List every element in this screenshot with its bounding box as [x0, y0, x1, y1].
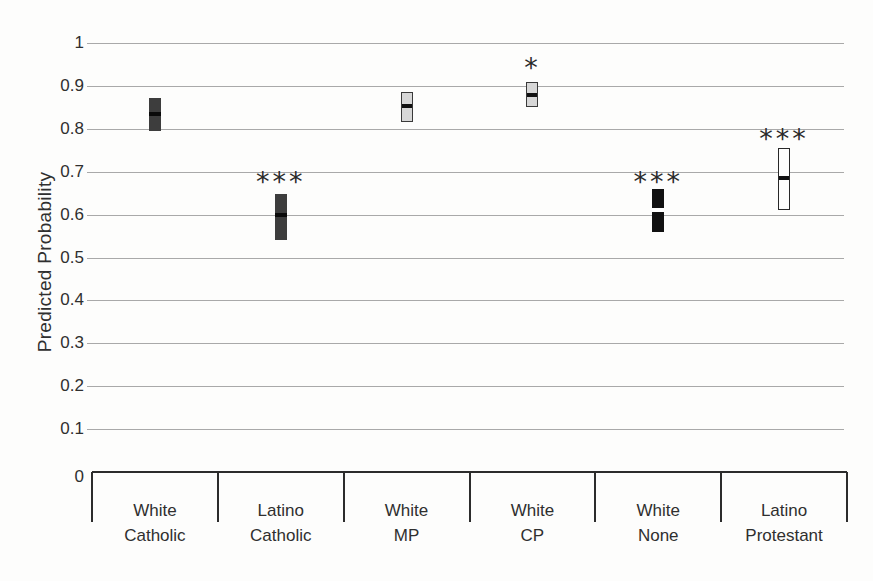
gridline-0.5: [87, 258, 844, 259]
point-estimate-latino-protestant: [779, 176, 789, 180]
y-tick-label: 0.8: [34, 119, 84, 139]
category-label-line: None: [595, 523, 721, 548]
chart-figure: Predicted Probability 10.90.80.70.60.50.…: [0, 0, 873, 581]
box-latino-protestant: [778, 148, 790, 210]
y-tick-label: 0.1: [34, 419, 84, 439]
y-tick-label: 0.3: [34, 333, 84, 353]
significance-stars-latino-protestant: ***: [721, 125, 847, 152]
significance-stars-white-cp: *: [470, 54, 596, 81]
category-label-line: MP: [344, 523, 470, 548]
plot-area: 10.90.80.70.60.50.40.30.20.10WhiteCathol…: [0, 0, 873, 581]
point-estimate-white-cp: [527, 93, 537, 97]
category-label-line: White: [470, 498, 596, 523]
y-tick-label: 1: [34, 33, 84, 53]
significance-stars-white-none: ***: [595, 168, 721, 195]
box-white-mp: [401, 92, 413, 122]
y-tick-label: 0.5: [34, 248, 84, 268]
y-tick-label: 0.9: [34, 76, 84, 96]
gridline-0.4: [87, 300, 844, 301]
gridline-0.2: [87, 386, 844, 387]
category-label-line: CP: [470, 523, 596, 548]
y-tick-label: 0.2: [34, 376, 84, 396]
category-label-line: Protestant: [721, 523, 847, 548]
point-estimate-white-none: [652, 208, 664, 212]
category-label-latino-catholic: LatinoCatholic: [218, 498, 344, 548]
category-label-white-none: WhiteNone: [595, 498, 721, 548]
gridline-0.1: [87, 429, 844, 430]
box-white-catholic: [149, 98, 161, 131]
category-label-line: Latino: [218, 498, 344, 523]
category-label-line: White: [595, 498, 721, 523]
y-tick-label: 0: [34, 467, 84, 487]
point-estimate-white-mp: [402, 104, 412, 108]
category-label-white-cp: WhiteCP: [470, 498, 596, 548]
box-latino-catholic: [275, 194, 287, 240]
point-estimate-white-catholic: [149, 112, 161, 116]
y-tick-label: 0.4: [34, 290, 84, 310]
category-label-line: Latino: [721, 498, 847, 523]
category-label-line: White: [92, 498, 218, 523]
category-label-white-mp: WhiteMP: [344, 498, 470, 548]
gridline-0.9: [87, 86, 844, 87]
gridline-0.7: [87, 172, 844, 173]
category-label-white-catholic: WhiteCatholic: [92, 498, 218, 548]
category-label-line: White: [344, 498, 470, 523]
gridline-1: [87, 43, 844, 44]
box-white-cp: [526, 82, 538, 108]
y-tick-label: 0.7: [34, 162, 84, 182]
significance-stars-latino-catholic: ***: [218, 168, 344, 195]
gridline-0.3: [87, 343, 844, 344]
y-tick-label: 0.6: [34, 205, 84, 225]
category-label-line: Catholic: [218, 523, 344, 548]
category-label-latino-protestant: LatinoProtestant: [721, 498, 847, 548]
point-estimate-latino-catholic: [275, 213, 287, 217]
category-label-line: Catholic: [92, 523, 218, 548]
gridline-0.6: [87, 215, 844, 216]
